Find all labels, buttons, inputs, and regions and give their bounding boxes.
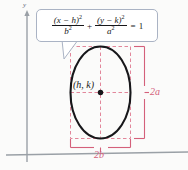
term-2-numerator-exponent: 2 <box>122 14 125 20</box>
equation-right-hand-side: 1 <box>139 21 144 31</box>
ellipse-center-dot <box>98 90 103 95</box>
term-2-denominator: a2 <box>105 26 117 36</box>
y-axis-arrowhead <box>24 10 29 16</box>
term-2-numerator: (y − k)2 <box>95 15 127 25</box>
term-1-numerator-exponent: 2 <box>79 14 82 20</box>
term-1-denominator-exponent: 2 <box>69 25 72 31</box>
equation-plus-operator: + <box>87 21 92 31</box>
ellipse-equation: (x − h)2 b2 + (y − k)2 a2 = 1 <box>51 15 143 36</box>
term-2-denominator-exponent: 2 <box>112 25 115 31</box>
equation-equals-sign: = <box>131 21 136 31</box>
term-1-denominator: b2 <box>62 26 74 36</box>
ellipse-center-label: (h, k) <box>73 80 94 90</box>
term-1-numerator-base: (x − h) <box>54 15 79 25</box>
equation-callout: (x − h)2 b2 + (y − k)2 a2 = 1 <box>36 9 158 42</box>
y-axis-label: y <box>23 2 26 9</box>
equation-term-2: (y − k)2 a2 <box>95 15 127 36</box>
horizontal-dimension-label: 2b <box>94 150 104 160</box>
term-1-numerator: (x − h)2 <box>52 15 84 25</box>
equation-term-1: (x − h)2 b2 <box>52 15 84 36</box>
term-2-numerator-base: (y − k) <box>97 15 122 25</box>
vertical-dimension-bracket <box>134 47 149 139</box>
ellipse-standard-form-figure: (x − h)2 b2 + (y − k)2 a2 = 1 y (h, k) 2… <box>0 0 188 170</box>
vertical-dimension-label: 2a <box>150 87 160 97</box>
